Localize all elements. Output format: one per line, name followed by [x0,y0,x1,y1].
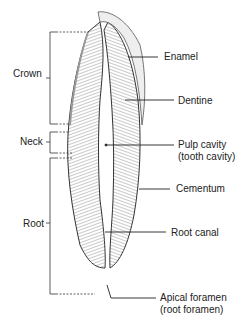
apical-leader [107,285,156,298]
tooth-cavity-label: (tooth cavity) [178,151,235,162]
tooth-diagram [0,0,250,331]
enamel-label: Enamel [164,51,198,62]
root-canal-label: Root canal [171,227,219,238]
neck-label: Neck [20,136,43,147]
dentine-label: Dentine [178,95,212,106]
apical-foramen-label: Apical foramen [160,292,227,303]
tooth-left-wall [68,22,106,268]
root-label: Root [23,218,44,229]
root-foramen-label: (root foramen) [160,304,223,315]
pulp-cavity-label: Pulp cavity [178,139,226,150]
cementum-label: Cementum [176,183,225,194]
crown-label: Crown [13,68,42,79]
